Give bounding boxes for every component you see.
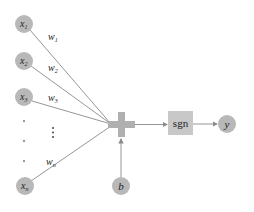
bias-node: b bbox=[112, 177, 130, 195]
edge-x1 bbox=[30, 30, 111, 124]
output-node: y bbox=[218, 115, 236, 133]
sgn-label: sgn bbox=[173, 117, 189, 129]
input-edges bbox=[30, 30, 111, 181]
weight-w3: w3 bbox=[48, 92, 58, 104]
omitted-inputs-dots bbox=[23, 120, 25, 162]
svg-text:b: b bbox=[118, 180, 124, 192]
edge-x2 bbox=[31, 66, 111, 124]
omitted-weights-ellipsis bbox=[52, 127, 54, 138]
weight-w1: w1 bbox=[48, 31, 58, 43]
edge-x3 bbox=[32, 101, 111, 124]
weight-wn: wn bbox=[46, 156, 56, 168]
input-node-xn: xn bbox=[16, 177, 34, 195]
input-node-x3: x3 bbox=[15, 88, 33, 106]
weight-w2: w2 bbox=[48, 62, 58, 74]
sgn-activation-box: sgn bbox=[168, 111, 193, 135]
perceptron-diagram: x1 x2 x3 xn w1 w2 w3 wn sgn b bbox=[0, 0, 254, 212]
input-node-x2: x2 bbox=[15, 52, 33, 70]
sum-plus-icon bbox=[108, 112, 135, 137]
edge-xn bbox=[31, 126, 111, 181]
input-node-x1: x1 bbox=[15, 15, 33, 33]
svg-text:y: y bbox=[224, 118, 230, 130]
